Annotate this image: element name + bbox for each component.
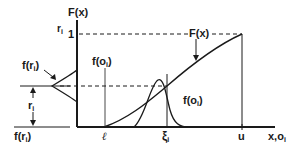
cdf-curve	[104, 34, 242, 127]
cdf-curve-label: F(x)	[188, 28, 210, 39]
ri-up-arrow-icon	[30, 87, 36, 93]
y-max-tick-label: 1	[68, 29, 74, 40]
density-curve	[134, 80, 188, 127]
left-density-label-top: f(ri)	[22, 60, 39, 72]
ri-interval-label: ri	[28, 100, 34, 112]
density-label-upper: f(oi)	[92, 56, 112, 68]
ri-down-arrow-icon	[30, 120, 36, 126]
density-label-right: f(oi)	[183, 95, 203, 107]
x-tick-upper-label: u	[238, 131, 245, 142]
x-tick-lower-label: ℓ	[102, 131, 107, 142]
y-axis-title: F(x)	[68, 7, 88, 18]
left-density-label-bottom: f(ri)	[14, 131, 31, 143]
y-axis-secondary-label: ri	[57, 24, 63, 35]
x-axis-title: x,oi	[268, 131, 286, 143]
x-tick-xi-label: ξi	[162, 130, 169, 143]
fri-arrow-line	[44, 70, 53, 77]
cdf-diagram	[0, 0, 303, 150]
